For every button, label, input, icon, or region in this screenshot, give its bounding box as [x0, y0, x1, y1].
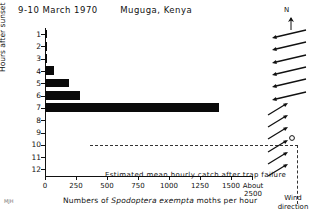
wind-direction-column: N Wind direction	[266, 4, 320, 217]
break-label-about: About	[243, 182, 264, 190]
y-tick	[41, 169, 45, 170]
y-tick	[41, 120, 45, 121]
x-tick	[231, 176, 232, 180]
y-tick-label-7: 7	[27, 103, 41, 112]
title-place: Muguga, Kenya	[120, 5, 192, 15]
plot-area: Estimated mean hourly catch after trap f…	[45, 28, 253, 176]
x-tick	[76, 176, 77, 180]
x-tick	[107, 176, 108, 180]
bar-hour-4	[45, 66, 54, 75]
y-tick-label-1: 1	[27, 30, 41, 39]
wind-arrow-arrow-left-down-hour-5	[266, 77, 320, 89]
y-tick-label-11: 11	[27, 153, 41, 162]
wind-arrow-arrow-up-right-hour-10	[266, 139, 320, 151]
y-tick	[41, 108, 45, 109]
figure-title: 9-10 March 1970 Muguga, Kenya	[18, 5, 192, 15]
bar-hour-1	[45, 30, 47, 39]
y-tick-label-12: 12	[27, 165, 41, 174]
x-tick	[45, 176, 46, 180]
wind-arrow-arrow-up-right-hour-11	[266, 151, 320, 163]
y-tick	[41, 71, 45, 72]
y-tick	[41, 145, 45, 146]
north-label: N	[284, 6, 289, 14]
y-tick-label-2: 2	[27, 42, 41, 51]
bar-hour-3	[45, 54, 47, 63]
y-tick	[41, 83, 45, 84]
y-tick	[41, 34, 45, 35]
bar-hour-6	[45, 91, 80, 100]
x-tick-label-500: 500	[100, 182, 113, 190]
x-tick-label-250: 250	[69, 182, 82, 190]
wind-arrow-arrow-left-down-hour-2	[266, 40, 320, 52]
y-tick	[41, 157, 45, 158]
x-tick-label-0: 0	[43, 182, 47, 190]
y-tick	[41, 59, 45, 60]
wind-arrow-arrow-up-right-hour-8	[266, 114, 320, 126]
wind-arrow-arrow-left-down-hour-3	[266, 53, 320, 65]
x-title-suffix: moths per hour	[194, 196, 257, 205]
x-tick-label-1000: 1000	[160, 182, 178, 190]
y-tick	[41, 133, 45, 134]
y-tick	[41, 96, 45, 97]
y-tick-label-10: 10	[27, 140, 41, 149]
y-tick-label-5: 5	[27, 79, 41, 88]
x-tick	[200, 176, 201, 180]
y-tick-label-4: 4	[27, 67, 41, 76]
x-tick-break	[252, 176, 253, 180]
wind-caption-line1: Wind	[272, 194, 314, 203]
wind-arrow-arrow-left-down-hour-4	[266, 65, 320, 77]
y-tick	[41, 46, 45, 47]
corner-mark: MJH	[4, 198, 14, 204]
wind-arrow-arrow-left-down-hour-6	[266, 90, 320, 102]
y-tick-label-9: 9	[27, 128, 41, 137]
x-tick	[169, 176, 170, 180]
y-tick-label-8: 8	[27, 116, 41, 125]
bar-hour-2	[45, 42, 47, 51]
bar-hour-5	[45, 79, 69, 88]
wind-arrow-arrow-left-down-hour-1	[266, 28, 320, 40]
figure-moth-catch: 9-10 March 1970 Muguga, Kenya Hours afte…	[0, 0, 320, 217]
x-tick	[138, 176, 139, 180]
x-title-species: Spodoptera exempta	[111, 196, 194, 205]
y-axis-title: Hours after sunset	[0, 3, 7, 72]
x-tick-label-1500: 1500	[222, 182, 240, 190]
x-axis-title: Numbers of Spodoptera exempta moths per …	[63, 196, 257, 205]
wind-arrow-arrow-up-right-hour-7	[266, 102, 320, 114]
title-date: 9-10 March 1970	[18, 5, 98, 15]
y-tick-label-6: 6	[27, 91, 41, 100]
bar-hour-7	[45, 103, 219, 112]
wind-caption: Wind direction	[272, 194, 314, 211]
x-title-prefix: Numbers of	[63, 196, 111, 205]
y-tick-label-3: 3	[27, 54, 41, 63]
wind-arrow-arrow-up-right-hour-12	[266, 163, 320, 175]
wind-caption-line2: direction	[272, 203, 314, 212]
x-tick-label-750: 750	[131, 182, 144, 190]
x-tick-label-1250: 1250	[191, 182, 209, 190]
estimate-annotation: Estimated mean hourly catch after trap f…	[105, 171, 286, 179]
wind-arrow-arrow-calm-circle-hour-9	[266, 126, 320, 138]
